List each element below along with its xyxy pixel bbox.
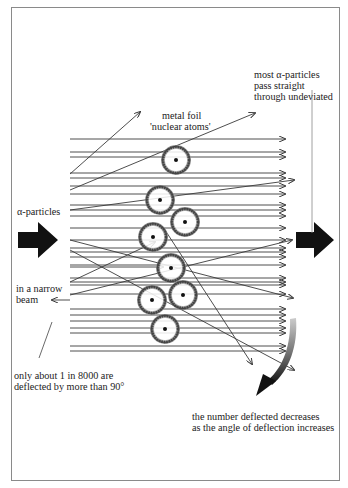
nucleus [158, 198, 162, 202]
deflected-path [70, 180, 294, 210]
number-deflected-label-2: as the angle of deflection increases [192, 422, 334, 434]
most-particles-label-2: pass straight [254, 80, 305, 92]
nucleus [151, 235, 155, 239]
atom [168, 280, 198, 310]
atom [145, 185, 175, 215]
nuclear-atoms-label: 'nuclear atoms' [150, 121, 211, 133]
metal-foil-label: metal foil [162, 110, 201, 122]
only-deflected-label-1: only about 1 in 8000 are [14, 370, 113, 382]
atom [161, 145, 191, 175]
most-particles-label-1: most α-particles [254, 69, 320, 81]
nucleus [163, 327, 167, 331]
atom [170, 207, 200, 237]
atom [138, 222, 168, 252]
narrow-beam-label-1: in a narrow [16, 283, 62, 295]
number-deflected-label-1: the number deflected decreases [192, 411, 320, 423]
only-deflected-label-2: deflected by more than 90° [14, 381, 124, 393]
nucleus [169, 266, 173, 270]
nucleus [150, 298, 154, 302]
nucleus [183, 220, 187, 224]
atom [150, 314, 180, 344]
narrow-beam-label-2: beam [16, 294, 38, 306]
deflected-path [70, 112, 140, 174]
nucleus [181, 293, 185, 297]
outgoing-beam-arrow-icon [296, 222, 334, 258]
alpha-particles-label: α-particles [17, 206, 60, 218]
nucleus [174, 158, 178, 162]
atom [156, 253, 186, 283]
incoming-beam-arrow-icon [18, 222, 58, 258]
most-particles-label-3: through undeviated [254, 91, 333, 103]
atom [137, 285, 167, 315]
